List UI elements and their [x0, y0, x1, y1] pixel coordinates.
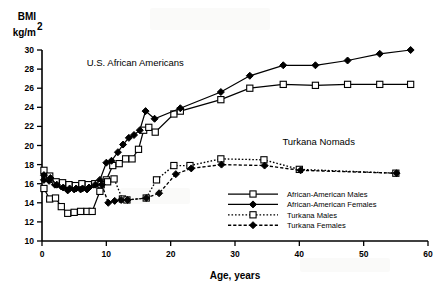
- data-point-marker: [218, 97, 224, 103]
- data-point-marker: [247, 85, 253, 91]
- data-point-marker: [344, 81, 350, 87]
- y-axis-title-line1: BMI: [18, 11, 37, 22]
- y-tick-label: 12: [25, 217, 35, 227]
- data-point-marker: [111, 197, 118, 204]
- y-tick-label: 10: [25, 236, 35, 246]
- data-point-marker: [344, 57, 351, 64]
- data-point-marker: [407, 47, 414, 54]
- annotation-turkana-nomads: Turkana Nomads: [282, 136, 355, 147]
- data-point-marker: [78, 208, 84, 214]
- data-point-marker: [116, 161, 122, 167]
- y-axis-title-line2: kg/m: [13, 27, 36, 38]
- x-tick-label: 10: [102, 249, 112, 259]
- data-point-marker: [111, 176, 117, 182]
- data-point-marker: [152, 129, 158, 135]
- legend-marker-0: [250, 191, 256, 197]
- data-point-marker: [377, 81, 383, 87]
- data-point-marker: [246, 72, 253, 79]
- data-point-marker: [58, 204, 64, 210]
- y-tick-label: 20: [25, 141, 35, 151]
- y-tick-label: 16: [25, 179, 35, 189]
- legend-label-1: African-American Females: [287, 200, 377, 209]
- data-point-marker: [217, 89, 224, 96]
- data-point-marker: [312, 62, 319, 69]
- y-tick-label: 14: [25, 198, 35, 208]
- y-axis-title-exponent: 2: [37, 21, 43, 32]
- data-point-marker: [280, 81, 286, 87]
- data-point-marker: [280, 62, 287, 69]
- series-path: [44, 50, 411, 190]
- x-axis-title: Age, years: [210, 270, 261, 281]
- data-point-marker: [105, 199, 112, 206]
- y-tick-label: 26: [25, 83, 35, 93]
- legend-marker-3: [250, 222, 257, 229]
- data-point-marker: [408, 81, 414, 87]
- data-point-marker: [153, 177, 159, 183]
- x-tick-label: 30: [230, 249, 240, 259]
- data-point-marker: [129, 156, 135, 162]
- legend-label-3: Turkana Females: [287, 221, 346, 230]
- data-point-marker: [105, 179, 111, 185]
- data-point-marker: [52, 195, 58, 201]
- annotation-us-african-americans: U.S. African Americans: [87, 57, 184, 68]
- y-tick-label: 24: [25, 102, 35, 112]
- bmi-age-chart: 10121416182022242628300102030405060 U.S.…: [0, 0, 443, 292]
- data-point-marker: [71, 209, 77, 215]
- y-tick-label: 30: [25, 45, 35, 55]
- data-point-marker: [89, 208, 95, 214]
- chart-canvas: 10121416182022242628300102030405060 U.S.…: [0, 0, 443, 292]
- x-tick-label: 60: [423, 249, 433, 259]
- data-point-marker: [312, 82, 318, 88]
- y-tick-label: 28: [25, 64, 35, 74]
- data-point-marker: [376, 50, 383, 57]
- legend-label-2: Turkana Males: [287, 211, 337, 220]
- axes: 10121416182022242628300102030405060: [25, 45, 433, 259]
- x-tick-label: 0: [40, 249, 45, 259]
- legend-marker-1: [250, 201, 257, 208]
- chart-legend: African-American MalesAfrican-American F…: [228, 190, 377, 230]
- y-tick-label: 18: [25, 160, 35, 170]
- data-point-marker: [171, 162, 177, 168]
- y-tick-label: 22: [25, 121, 35, 131]
- x-tick-label: 20: [166, 249, 176, 259]
- data-point-marker: [65, 210, 71, 216]
- data-point-marker: [41, 185, 47, 191]
- legend-marker-2: [250, 212, 256, 218]
- data-point-marker: [261, 157, 267, 163]
- data-point-marker: [97, 188, 103, 194]
- data-point-marker: [123, 156, 129, 162]
- data-point-marker: [146, 124, 152, 130]
- data-point-marker: [135, 146, 141, 152]
- legend-label-0: African-American Males: [287, 190, 368, 199]
